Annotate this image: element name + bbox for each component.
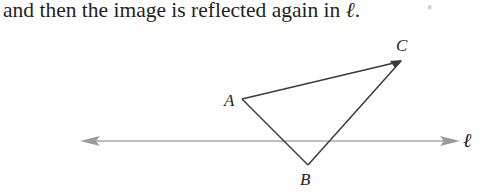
vertex-label-a: A [224, 91, 234, 111]
reflection-figure [0, 0, 490, 194]
line-label-l: ℓ [463, 129, 471, 152]
vertex-label-c: C [396, 36, 407, 56]
triangle-abc [242, 60, 402, 165]
line-l [80, 136, 460, 146]
vertex-label-b: B [300, 170, 310, 190]
